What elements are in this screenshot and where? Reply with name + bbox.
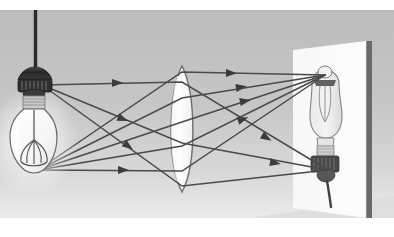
optics-scene (0, 10, 394, 218)
ray-diagram-svg (0, 10, 394, 218)
screen-right-edge (367, 41, 372, 218)
screw-base (23, 96, 45, 109)
screen-edge-shade (366, 41, 367, 218)
image-screw-base (317, 146, 334, 157)
figure-canvas (0, 0, 394, 237)
